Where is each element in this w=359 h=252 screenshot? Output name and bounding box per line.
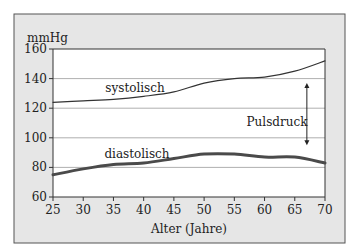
x-tick-label: 60	[257, 203, 272, 217]
x-tick-label: 25	[45, 203, 60, 217]
x-tick-label: 45	[166, 203, 181, 217]
y-tick-label: 60	[32, 190, 47, 204]
x-tick-label: 30	[76, 203, 91, 217]
x-axis-label: Alter (Jahre)	[150, 222, 227, 236]
systolic-label: systolisch	[105, 81, 165, 95]
x-tick-label: 55	[227, 203, 242, 217]
y-tick-label: 80	[32, 160, 47, 174]
y-tick-label: 120	[24, 101, 47, 115]
y-axis-label: mmHg	[27, 31, 68, 45]
x-tick-label: 65	[287, 203, 302, 217]
pulse-pressure-label: Pulsdruck	[247, 115, 309, 129]
blood-pressure-chart: 608010012014016025303540455055606570 mmH…	[0, 0, 359, 252]
y-tick-label: 100	[24, 131, 47, 145]
x-tick-label: 35	[106, 203, 121, 217]
diastolic-label: diastolisch	[104, 147, 169, 161]
y-tick-label: 140	[24, 72, 47, 86]
x-tick-label: 40	[136, 203, 151, 217]
x-tick-label: 70	[317, 203, 332, 217]
x-tick-label: 50	[196, 203, 211, 217]
